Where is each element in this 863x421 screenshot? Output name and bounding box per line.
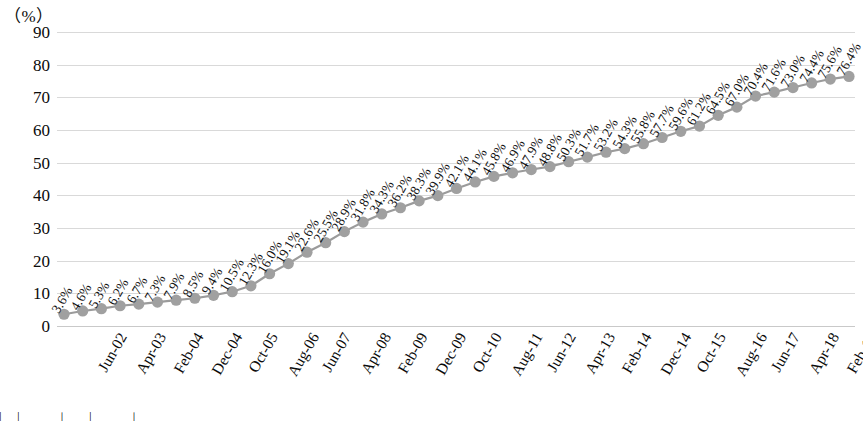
x-axis-tick-label: Dec-04: [209, 330, 245, 377]
x-axis-tick-label: Feb-14: [619, 330, 654, 376]
y-axis-tick-label: 90: [2, 24, 50, 41]
x-axis-tick-label: Jun-07: [319, 330, 354, 374]
y-axis-tick-label: 0: [2, 318, 50, 335]
x-axis-tick-label: Dec-14: [658, 330, 694, 377]
x-axis-tick-label: Feb-04: [171, 330, 206, 376]
x-axis-tick-labels: Jun-02Apr-03Feb-04Dec-04Oct-05Aug-06Jun-…: [57, 330, 855, 421]
y-axis-tick-label: 10: [2, 285, 50, 302]
y-axis-tick-label: 40: [2, 187, 50, 204]
footer-clipped-caption: ︳︳—︱—︳—︱: [0, 412, 863, 421]
x-axis-tick-label: Apr-08: [358, 330, 394, 376]
axis-baseline: [57, 326, 855, 327]
x-axis-tick-label: Aug-16: [733, 330, 770, 379]
y-axis-tick-label: 50: [2, 154, 50, 171]
x-axis-tick-label: Feb-19: [844, 330, 863, 376]
x-axis-tick-label: Apr-03: [134, 330, 170, 376]
y-axis-tick-label: 60: [2, 122, 50, 139]
x-axis-tick-label: Oct-15: [694, 330, 729, 375]
x-axis-tick-label: Dec-09: [433, 330, 469, 377]
x-axis-tick-label: Apr-13: [582, 330, 618, 376]
x-axis-tick-label: Jun-02: [95, 330, 130, 374]
x-axis-tick-label: Feb-09: [395, 330, 430, 376]
x-axis-tick-label: Aug-06: [285, 330, 322, 379]
x-axis-tick-label: Jun-17: [768, 330, 803, 374]
y-axis-tick-labels: 9080706050403020100: [0, 32, 50, 326]
chart-container: （%） 9080706050403020100 3.6%4.6%5.3%6.2%…: [0, 0, 863, 421]
x-axis-tick-label: Oct-05: [245, 330, 280, 375]
x-axis-tick-label: Aug-11: [509, 330, 546, 378]
x-axis-tick-label: Jun-12: [544, 330, 579, 374]
y-axis-tick-label: 30: [2, 220, 50, 237]
x-axis-tick-label: Oct-10: [469, 330, 504, 375]
x-axis-tick-label: Apr-18: [806, 330, 842, 376]
y-axis-tick-label: 80: [2, 56, 50, 73]
plot-area: 3.6%4.6%5.3%6.2%6.7%7.3%7.9%8.5%9.4%10.5…: [57, 32, 855, 326]
y-axis-tick-label: 20: [2, 252, 50, 269]
footer-caption-text: ︳︳—︱—︳—︱: [0, 412, 863, 421]
y-axis-tick-label: 70: [2, 89, 50, 106]
